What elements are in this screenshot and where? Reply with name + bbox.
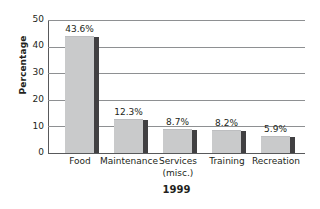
cat-label-services-line2: (misc.) (151, 168, 205, 180)
bar-series: 43.6% 12.3% 8.7% 8.2% (48, 20, 305, 153)
cat-label-services-line1: Services (151, 156, 205, 168)
cat-label-recreation: Recreation (245, 156, 307, 168)
bar-training-body (212, 130, 241, 153)
bar-food-shadow (94, 37, 99, 153)
y-axis-tick-labels: 50 40 30 20 10 0 (24, 0, 44, 209)
bar-services-body (163, 129, 192, 153)
plot-area: 43.6% 12.3% 8.7% 8.2% (48, 20, 305, 153)
y-tick-10: 10 (24, 122, 44, 131)
y-tick-20: 20 (24, 95, 44, 104)
bar-services: 8.7% (163, 20, 192, 153)
bar-services-value: 8.7% (166, 118, 189, 127)
bar-chart: Percentage 50 40 30 20 10 0 43.6% (0, 0, 320, 209)
bar-services-shadow (192, 130, 197, 153)
y-tick-40: 40 (24, 41, 44, 50)
cat-label-recreation-line1: Recreation (245, 156, 307, 168)
bar-maintenance-value: 12.3% (114, 108, 143, 117)
bar-training: 8.2% (212, 20, 241, 153)
x-axis-title: 1999 (48, 184, 305, 195)
bar-maintenance-shadow (143, 120, 148, 153)
bar-maintenance-body (114, 119, 143, 153)
bar-food-value: 43.6% (65, 25, 94, 34)
y-tick-30: 30 (24, 68, 44, 77)
bar-food-body (65, 36, 94, 153)
bar-food: 43.6% (65, 20, 94, 153)
cat-label-services: Services (misc.) (151, 156, 205, 179)
bar-recreation-body (261, 136, 290, 153)
bar-recreation: 5.9% (261, 20, 290, 153)
bar-training-value: 8.2% (215, 119, 238, 128)
bar-maintenance: 12.3% (114, 20, 143, 153)
bar-recreation-value: 5.9% (264, 125, 287, 134)
y-tick-0: 0 (24, 148, 44, 157)
bar-recreation-shadow (290, 137, 295, 153)
bar-training-shadow (241, 131, 246, 153)
y-tick-50: 50 (24, 15, 44, 24)
